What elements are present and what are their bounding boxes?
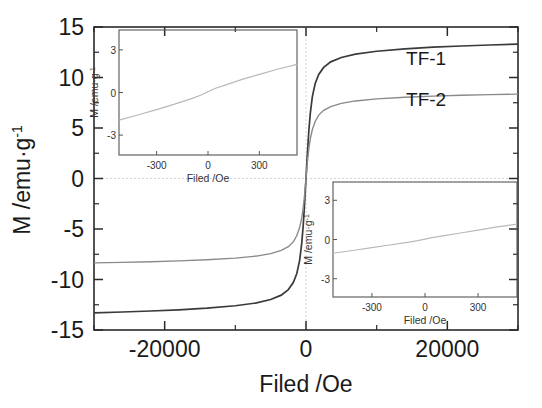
series-label-tf-2: TF-2 xyxy=(406,89,446,110)
inset-y-tick-label: 0 xyxy=(324,235,330,246)
inset-y-tick-label: 0 xyxy=(110,88,116,99)
y-axis-tick-label: -10 xyxy=(51,267,84,293)
inset-x-axis-title: Filed /Oe xyxy=(187,172,230,184)
inset-x-axis-title: Filed /Oe xyxy=(404,314,447,326)
inset-y-axis-exponent: -1 xyxy=(303,214,310,220)
figure-canvas: 151050-5-10-15-20000020000 TF-1TF-2 30-3… xyxy=(0,0,542,408)
inset-x-tick-label: 0 xyxy=(205,160,211,171)
y-axis-tick-label: -15 xyxy=(51,317,84,343)
y-axis-title: M /emu·g-1 xyxy=(9,125,35,235)
x-axis-tick-label: 20000 xyxy=(415,336,479,362)
inset-x-tick-label: -300 xyxy=(147,160,167,171)
inset-y-axis-title: M /emu·g-1 xyxy=(302,214,314,265)
x-axis-tick-label: 0 xyxy=(300,336,313,362)
y-axis-tick-label: 0 xyxy=(71,166,84,192)
inset-y-tick-label: -3 xyxy=(321,274,330,285)
inset-x-tick-label: 300 xyxy=(470,302,487,313)
inset-x-tick-label: -300 xyxy=(362,302,382,313)
inset-y-tick-label: -3 xyxy=(107,130,116,141)
inset-x-tick-label: 300 xyxy=(251,160,268,171)
inset-y-tick-label: 3 xyxy=(110,45,116,56)
inset-y-axis-title: M /emu·g-1 xyxy=(88,67,100,118)
y-axis-title-group: M /emu·g-1 xyxy=(9,125,35,235)
x-axis-title: Filed /Oe xyxy=(259,371,352,397)
y-axis-tick-label: -5 xyxy=(64,216,84,242)
y-axis-tick-label: 5 xyxy=(71,115,84,141)
series-label-tf-1: TF-1 xyxy=(406,48,446,69)
magnetization-hysteresis-chart: 151050-5-10-15-20000020000 TF-1TF-2 30-3… xyxy=(0,0,542,408)
inset-y-axis-title-group: M /emu·g-1 xyxy=(302,214,314,265)
y-axis-tick-label: 15 xyxy=(58,14,84,40)
x-axis-tick-label: -20000 xyxy=(129,336,201,362)
y-axis-tick-label: 10 xyxy=(58,65,84,91)
inset-y-axis-exponent: -1 xyxy=(89,67,96,73)
inset-x-tick-label: 0 xyxy=(422,302,428,313)
inset-y-tick-label: 3 xyxy=(324,195,330,206)
inset-y-axis-title-group: M /emu·g-1 xyxy=(88,67,100,118)
